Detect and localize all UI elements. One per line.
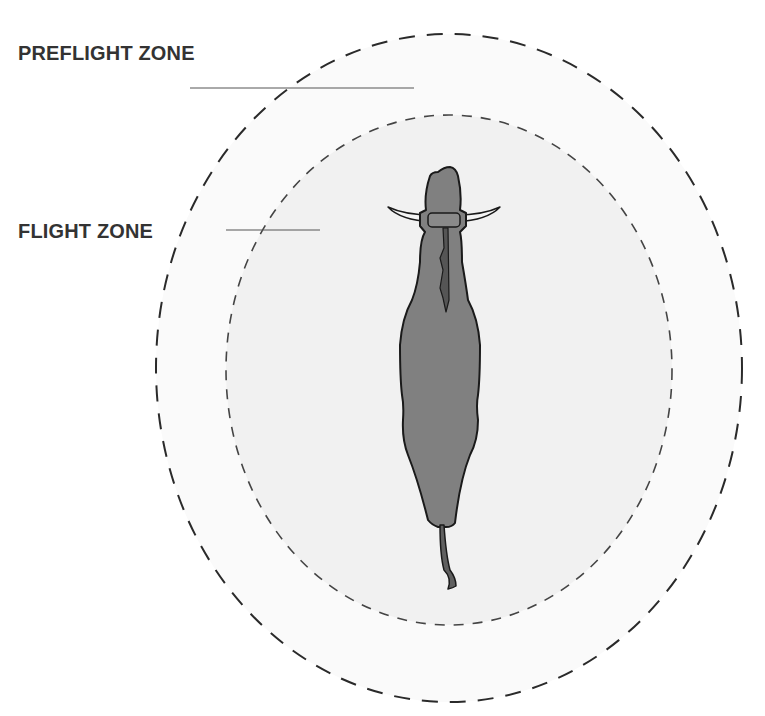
- cow-poll-icon: [428, 213, 460, 227]
- flight-zone-diagram: [0, 0, 765, 716]
- preflight-zone-label: PREFLIGHT ZONE: [18, 41, 195, 65]
- flight-zone-label: FLIGHT ZONE: [18, 219, 153, 243]
